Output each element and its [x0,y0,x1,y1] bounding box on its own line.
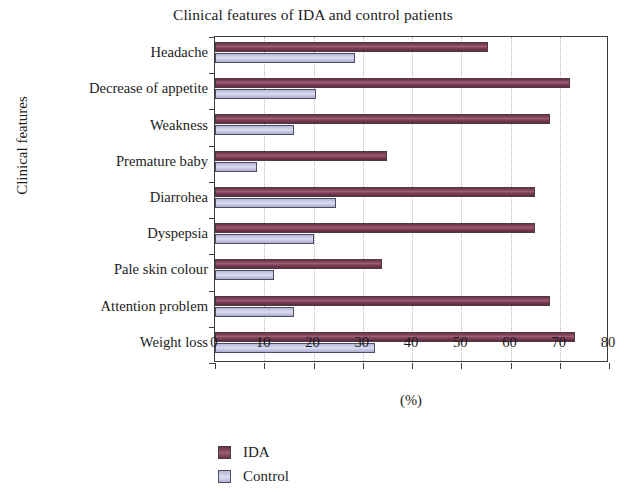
x-axis-tick [215,363,216,369]
bar-group [215,182,607,218]
bar-control [215,125,294,135]
bar-control [215,307,294,317]
legend-item-control: Control [218,464,478,488]
chart-title: Clinical features of IDA and control pat… [0,6,626,24]
y-axis-tick [209,327,215,328]
x-axis-tick-label: 70 [539,334,579,351]
bar-control [215,162,257,172]
y-axis-tick-label: Diarrohea [0,189,208,206]
x-axis-tick [314,363,315,369]
bar-ida [215,259,382,269]
x-axis-tick [412,363,413,369]
y-axis-title: Clinical features [14,36,31,256]
y-axis-tick-label: Pale skin colour [0,261,208,278]
bar-group [215,109,607,145]
legend-swatch-control [218,470,231,483]
bar-group [215,37,607,73]
y-axis-tick-label: Attention problem [0,298,208,315]
bar-ida [215,223,535,233]
bar-control [215,198,336,208]
legend-label-control: Control [243,468,289,485]
legend-item-ida: IDA [218,440,478,464]
y-axis-tick [209,37,215,38]
x-axis-tick [511,363,512,369]
bar-ida [215,114,550,124]
y-axis-tick-label: Weakness [0,117,208,134]
x-axis-tick-label: 60 [490,334,530,351]
bar-control [215,89,316,99]
bar-control [215,234,314,244]
x-axis-tick-label: 40 [391,334,431,351]
bar-group [215,291,607,327]
x-axis-tick [560,363,561,369]
y-axis-tick [209,254,215,255]
plot-area [214,36,608,362]
bar-control [215,270,274,280]
y-axis-tick-label: Decrease of appetite [0,80,208,97]
y-axis-tick [209,73,215,74]
x-axis-tick-label: 10 [243,334,283,351]
x-axis-tick-label: 80 [588,334,626,351]
chart-figure: Clinical features of IDA and control pat… [0,0,626,492]
bar-ida [215,151,387,161]
x-axis-tick-label: 0 [194,334,234,351]
x-axis-tick [609,363,610,369]
x-axis-tick-label: 50 [440,334,480,351]
y-axis-tick [209,146,215,147]
legend-swatch-ida [218,446,231,459]
bar-control [215,53,355,63]
x-axis-tick [264,363,265,369]
bar-ida [215,187,535,197]
bar-group [215,254,607,290]
bar-ida [215,296,550,306]
legend-label-ida: IDA [243,444,270,461]
y-axis-tick-label: Premature baby [0,153,208,170]
y-axis-tick [209,182,215,183]
bar-ida [215,42,488,52]
y-axis-tick-label: Weight loss [0,334,208,351]
bar-ida [215,78,570,88]
x-axis-title: (%) [214,392,608,409]
x-axis-tick [363,363,364,369]
y-axis-tick [209,218,215,219]
y-axis-tick [209,109,215,110]
y-axis-tick-label: Headache [0,44,208,61]
bar-group [215,146,607,182]
bar-group [215,218,607,254]
y-axis-tick [209,291,215,292]
chart-legend: IDA Control [218,440,478,488]
x-axis-tick-label: 20 [293,334,333,351]
y-axis-tick-label: Dyspepsia [0,225,208,242]
bar-group [215,73,607,109]
x-axis-tick-label: 30 [342,334,382,351]
x-axis-tick [461,363,462,369]
